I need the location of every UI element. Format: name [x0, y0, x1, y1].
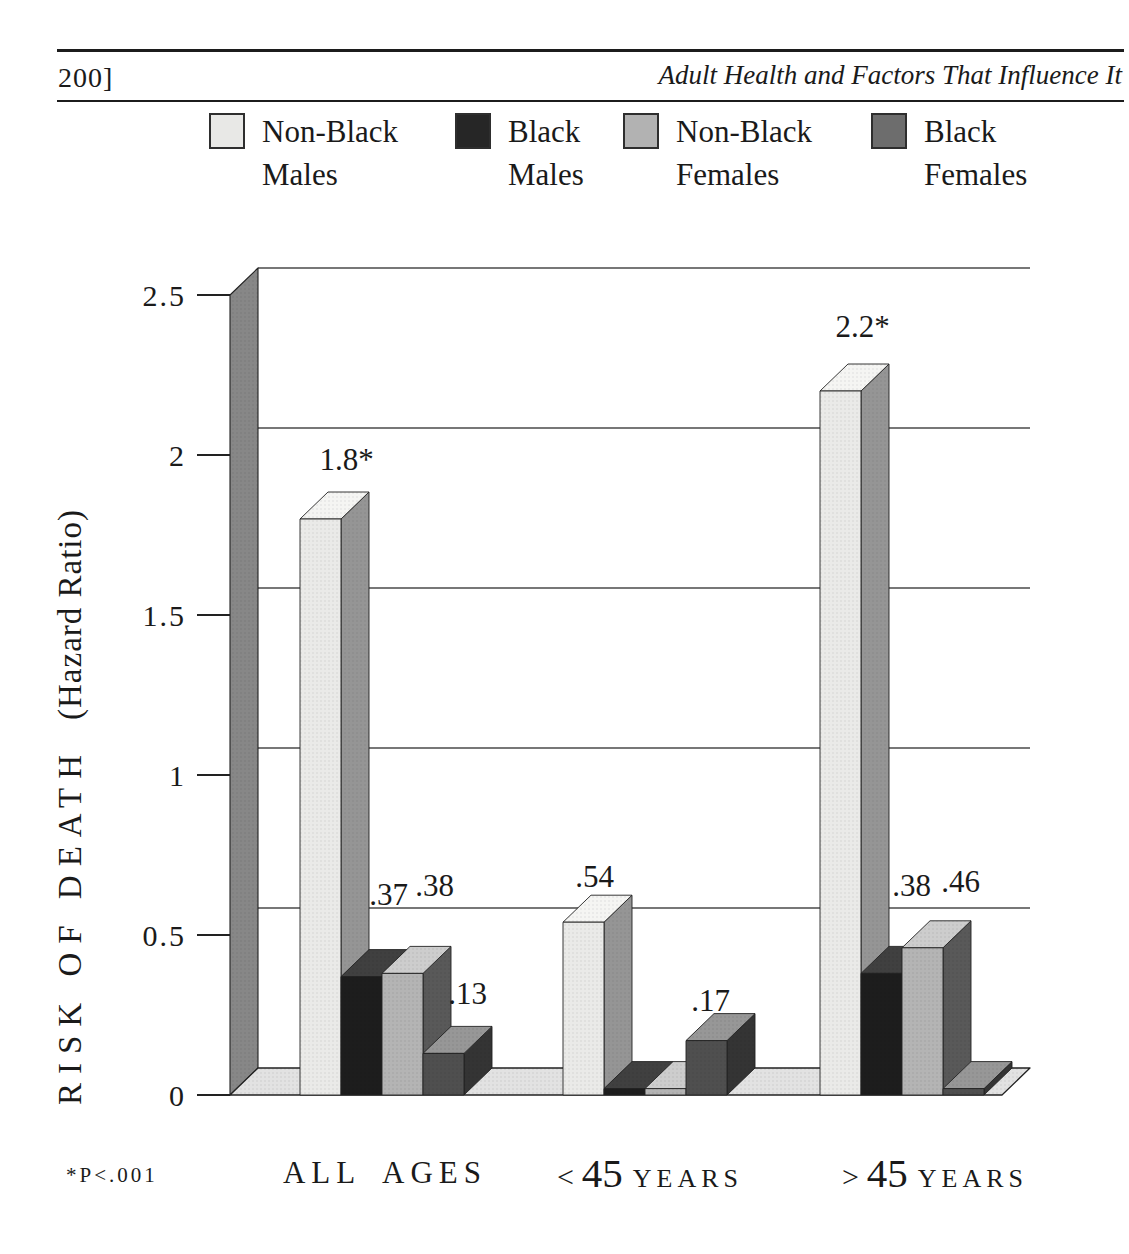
y-axis-title-caps: RISK OF DEATH [52, 746, 88, 1105]
bar-front-texture [604, 1089, 645, 1095]
value-label: .13 [448, 976, 487, 1011]
bar-front-texture [645, 1089, 686, 1095]
bar-front-texture [563, 922, 604, 1095]
book-page: { "page": { "page_number": "200]", "runn… [0, 0, 1129, 1254]
y-tick-label: 2.5 [143, 279, 187, 312]
y-axis-title: RISK OF DEATH(Hazard Ratio) [52, 365, 98, 1105]
bar-front-texture [820, 391, 861, 1095]
bar-chart: 00.511.522.51.8*.37.38.13.54.172.2*.38.4… [0, 0, 1129, 1254]
value-label: 1.8* [319, 442, 373, 477]
y-tick-label: 1.5 [143, 599, 187, 632]
category-label: >45YEARS [725, 1150, 1129, 1205]
value-label: .17 [691, 983, 730, 1018]
bar-front-texture [686, 1041, 727, 1095]
value-label: 2.2* [835, 309, 889, 344]
value-label: .46 [941, 864, 980, 899]
y-tick-label: 0 [169, 1079, 186, 1112]
value-label: .38 [415, 868, 454, 903]
y-tick-label: 1 [169, 759, 186, 792]
value-label: .37 [369, 877, 408, 912]
bar-front-texture [341, 977, 382, 1095]
y-axis-title-paren: (Hazard Ratio) [52, 509, 88, 720]
value-label: .38 [892, 868, 931, 903]
bar-front-texture [902, 948, 943, 1095]
bar-front-texture [861, 973, 902, 1095]
y-tick-label: 0.5 [143, 919, 187, 952]
bar-front-texture [300, 519, 341, 1095]
value-label: .54 [575, 859, 614, 894]
axis-wall-texture [230, 268, 258, 1095]
bar-front-texture [943, 1089, 984, 1095]
y-tick-label: 2 [169, 439, 186, 472]
significance-footnote: *P<.001 [66, 1163, 158, 1188]
bar-front-texture [423, 1053, 464, 1095]
bar-front-texture [382, 973, 423, 1095]
